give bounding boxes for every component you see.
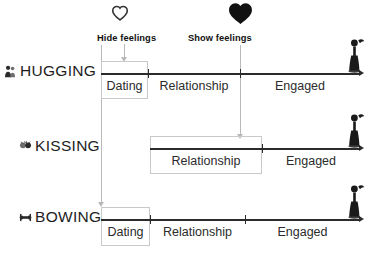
segment-label-hugging-engaged: Engaged: [240, 79, 360, 93]
timeline-tick-hugging-1: [148, 69, 150, 78]
timeline-axis-bowing: [101, 219, 360, 221]
segment-label-kissing-relationship: Relationship: [150, 154, 262, 168]
timeline-axis-kissing: [150, 148, 360, 150]
timeline-tick-bowing-2: [245, 215, 247, 224]
annotation-label-show-feelings: Show feelings: [188, 33, 252, 43]
segment-label-bowing-dating: Dating: [101, 225, 150, 239]
heart-outline-icon: [111, 5, 129, 25]
segment-label-hugging-dating: Dating: [101, 79, 148, 93]
heart-filled-icon: [228, 2, 253, 29]
timeline-tick-kissing-1: [262, 144, 264, 153]
hugging-couple-icon: [4, 64, 17, 77]
row-label-kissing: KISSING: [35, 137, 100, 155]
row-label-bowing: BOWING: [35, 208, 101, 226]
segment-label-hugging-relationship: Relationship: [148, 79, 240, 93]
standing-figure-icon-kissing: [346, 113, 366, 153]
segment-label-bowing-relationship: Relationship: [150, 225, 245, 239]
annotation-label-hide-feelings: Hide feelings: [97, 33, 156, 43]
timeline-axis-hugging: [101, 73, 360, 75]
hide-feelings-short-arrow-line: [124, 44, 125, 58]
row-label-hugging: HUGGING: [20, 62, 96, 80]
segment-label-bowing-engaged: Engaged: [245, 225, 360, 239]
segment-label-kissing-engaged: Engaged: [262, 154, 360, 168]
bowing-couple-icon: [19, 210, 32, 223]
timeline-tick-bowing-1: [150, 215, 152, 224]
standing-figure-icon-bowing: [346, 184, 366, 224]
standing-figure-icon-hugging: [346, 38, 366, 78]
kissing-couple-icon: [19, 139, 32, 152]
relationship-stage-diagram: Hide feelings Show feelings HUGGING Dati…: [0, 0, 375, 258]
timeline-tick-hugging-2: [240, 69, 242, 78]
